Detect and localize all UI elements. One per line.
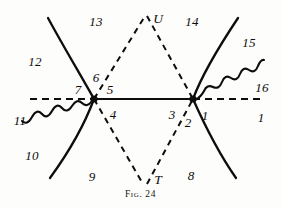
point-label-u: U [153, 12, 163, 26]
figure-caption: Fig. 24 [0, 189, 281, 199]
region-label-12: 12 [28, 55, 41, 68]
region-label-7: 7 [75, 83, 82, 96]
wavy-line-left [22, 101, 92, 123]
wavy-line-right [195, 60, 264, 100]
region-label-1a: 1 [202, 109, 209, 122]
region-label-9: 9 [89, 170, 96, 183]
region-label-5: 5 [107, 83, 114, 96]
curve-lower-right [193, 99, 236, 178]
region-label-3: 3 [169, 108, 176, 121]
region-label-14: 14 [185, 15, 198, 28]
region-label-1b: 1 [258, 111, 265, 124]
dashed-leg-left-to-t [94, 99, 143, 184]
region-label-16: 16 [255, 81, 268, 94]
curve-upper-left [48, 18, 94, 99]
region-label-13: 13 [89, 15, 102, 28]
figure-drawing-canvas [0, 0, 281, 209]
region-label-8: 8 [188, 169, 195, 182]
region-label-11: 11 [14, 114, 26, 127]
region-label-2: 2 [185, 116, 192, 129]
region-label-6: 6 [93, 71, 100, 84]
region-label-15: 15 [242, 36, 255, 49]
region-label-4: 4 [110, 108, 117, 121]
left-vertex [90, 95, 97, 102]
figure-24: U T 1 1 2 3 4 5 6 7 8 9 10 11 12 13 14 1… [0, 0, 281, 209]
right-vertex [189, 95, 196, 102]
curve-lower-left [50, 99, 94, 178]
region-label-10: 10 [25, 149, 38, 162]
point-label-t: T [154, 173, 162, 187]
